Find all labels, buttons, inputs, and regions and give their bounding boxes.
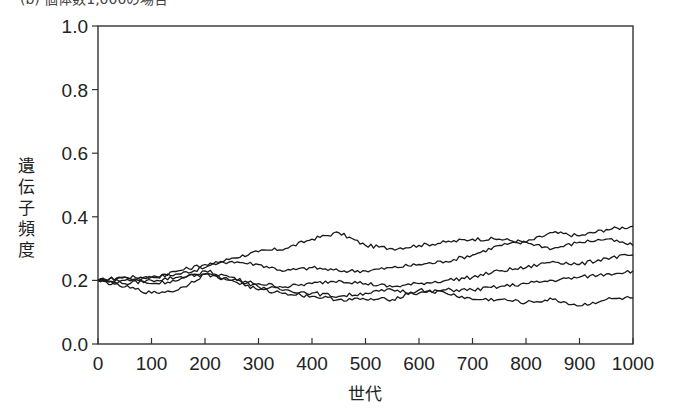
y-axis-title: 遺伝子頻度 <box>18 156 35 260</box>
x-tick-label: 1000 <box>612 353 654 374</box>
y-tick-label: 0.4 <box>62 207 89 228</box>
y-tick-label: 0.2 <box>62 270 88 291</box>
plot-frame <box>98 26 633 344</box>
x-tick-label: 200 <box>189 353 221 374</box>
gene-frequency-chart: (b) 個体数1,000の場合 0.00.20.40.60.81.0 01002… <box>0 0 674 418</box>
x-tick-label: 500 <box>350 353 382 374</box>
series-line-run-5 <box>98 273 633 306</box>
plot-area <box>98 26 633 344</box>
x-axis-title: 世代 <box>348 384 382 404</box>
x-tick-label: 900 <box>564 353 596 374</box>
series-lines <box>98 226 633 305</box>
x-tick-label: 100 <box>136 353 168 374</box>
chart-caption: (b) 個体数1,000の場合 <box>20 0 168 7</box>
y-tick-label: 0.6 <box>62 143 88 164</box>
x-tick-label: 0 <box>93 353 104 374</box>
x-tick-label: 300 <box>243 353 275 374</box>
x-tick-label: 700 <box>457 353 489 374</box>
y-tick-label: 1.0 <box>62 16 88 37</box>
series-line-run-1 <box>98 226 633 281</box>
x-tick-label: 600 <box>403 353 435 374</box>
x-tick-label: 800 <box>510 353 542 374</box>
x-tick-label: 400 <box>296 353 328 374</box>
y-tick-label: 0.0 <box>62 334 88 355</box>
y-tick-label: 0.8 <box>62 80 88 101</box>
y-axis: 0.00.20.40.60.81.0 <box>62 16 98 355</box>
